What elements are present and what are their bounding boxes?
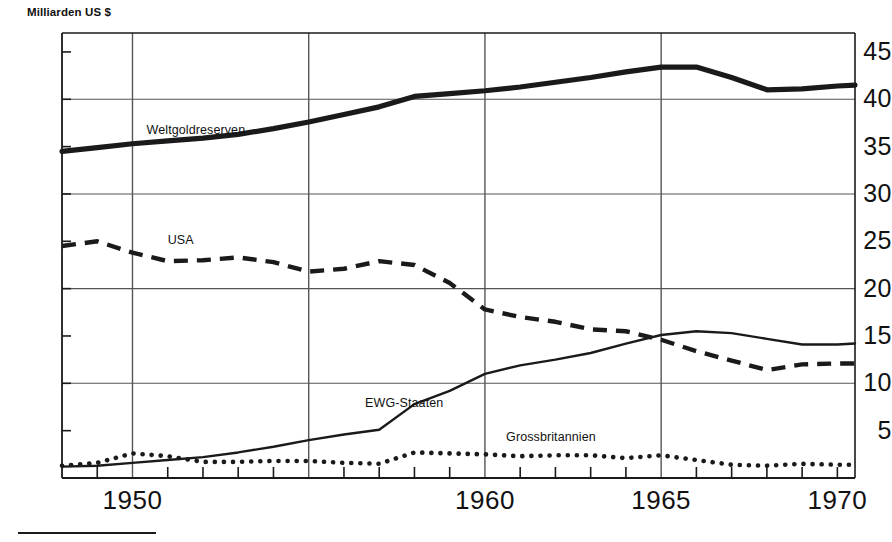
y-tick-label: 25 [846,228,892,253]
y-tick-label: 30 [846,181,892,206]
y-tick-label: 10 [846,370,892,395]
axis-ticks [62,52,837,478]
series-label-weltgoldreserven: Weltgoldreserven [147,123,246,137]
series-label-ewg-staaten: EWG-Staaten [365,396,443,410]
y-axis-title: Milliarden US $ [27,6,111,18]
footer-rule [18,532,156,534]
series-label-usa: USA [168,233,194,247]
chart-container: Milliarden US $ 51015202530354045 195019… [0,0,892,542]
plot-area [0,0,892,542]
x-tick-label: 1970 [807,487,867,513]
x-tick-label: 1960 [455,487,515,513]
x-tick-label: 1950 [103,487,163,513]
y-tick-label: 20 [846,276,892,301]
y-tick-label: 35 [846,134,892,159]
gridlines [62,33,855,478]
series-line-usa [62,241,855,370]
y-tick-label: 5 [846,418,892,443]
series-line-weltgoldreserven [62,67,855,151]
series-line-ewg-staaten [62,331,855,466]
x-tick-label: 1965 [631,487,691,513]
y-tick-label: 15 [846,323,892,348]
y-tick-label: 45 [846,39,892,64]
y-tick-label: 40 [846,86,892,111]
series-label-grossbritannien: Grossbritannien [506,430,596,444]
